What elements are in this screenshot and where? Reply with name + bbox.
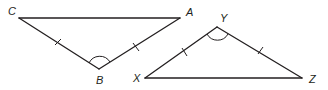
- triangle-xyz: [145, 27, 302, 78]
- triangle-cba: [19, 18, 180, 69]
- vertex-label-z: Z: [308, 73, 317, 85]
- side-xy: [145, 27, 217, 78]
- side-cb: [19, 18, 99, 69]
- angle-arc-b: [89, 56, 110, 63]
- vertex-label-a: A: [185, 6, 193, 18]
- vertex-label-x: X: [132, 72, 141, 84]
- vertex-label-b: B: [96, 74, 103, 86]
- vertex-label-c: C: [8, 5, 16, 17]
- angle-arc-y: [207, 34, 228, 40]
- triangle-diagram: C A B X Y Z: [0, 0, 328, 90]
- vertex-label-y: Y: [220, 12, 228, 24]
